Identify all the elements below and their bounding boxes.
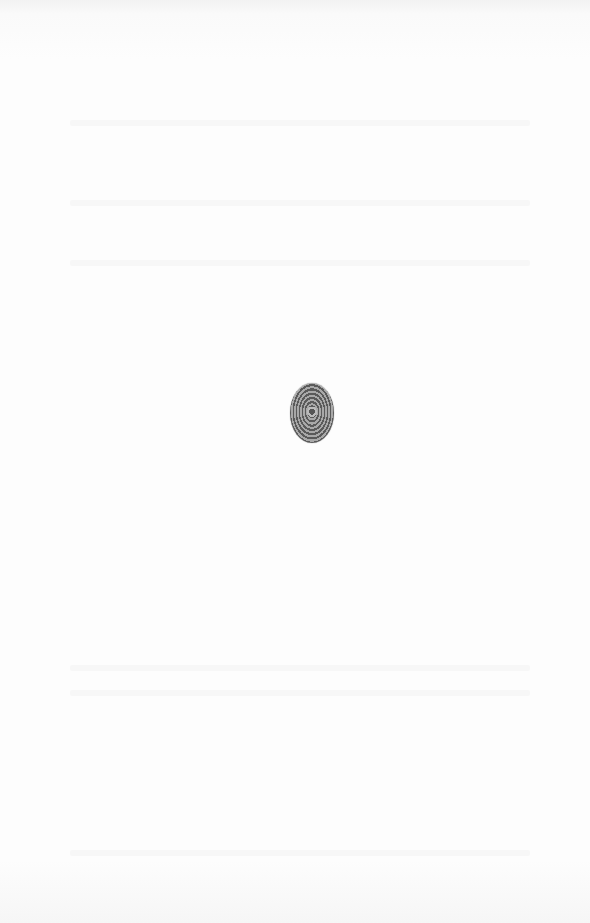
bleed-through-line (70, 200, 530, 206)
bleed-through-line (70, 665, 530, 671)
bleed-through-line (70, 260, 530, 266)
bleed-through-line (70, 850, 530, 856)
bleed-through-line (70, 690, 530, 696)
bleed-through-line (70, 120, 530, 126)
scanned-page (0, 0, 590, 923)
fingerprint-rosette-ornament-icon (290, 383, 334, 443)
